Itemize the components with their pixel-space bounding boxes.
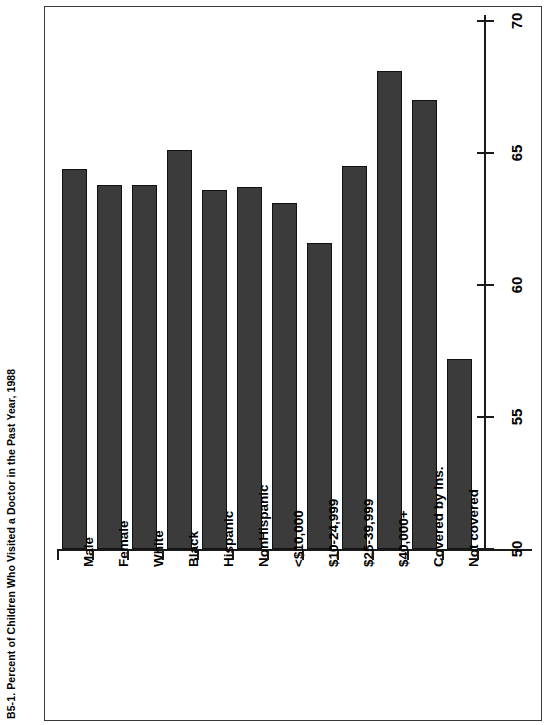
value-axis-tick-label: 60	[508, 265, 526, 305]
value-axis-tick	[477, 416, 494, 418]
value-axis-tick	[477, 284, 494, 286]
bar-hispanic[interactable]	[202, 190, 227, 549]
category-tick	[127, 551, 129, 560]
category-label: White	[152, 530, 166, 567]
bar-black[interactable]	[167, 150, 192, 549]
bar-female[interactable]	[97, 185, 122, 549]
category-tick	[372, 551, 374, 560]
category-tick	[92, 551, 94, 560]
figure-frame: 5055606570MaleFemaleWhiteBlackHispanicNo…	[44, 6, 542, 721]
category-label: Female	[117, 520, 131, 567]
category-tick	[477, 551, 479, 560]
bar-10-000[interactable]	[272, 203, 297, 549]
bar-male[interactable]	[62, 169, 87, 549]
bar-40-000[interactable]	[377, 71, 402, 549]
category-label: Black	[187, 531, 201, 567]
category-tick	[197, 551, 199, 560]
value-axis-tick-label: 50	[508, 529, 526, 569]
category-tick	[267, 551, 269, 560]
category-tick	[57, 551, 59, 560]
value-axis-tick-label: 55	[508, 397, 526, 437]
category-tick	[407, 551, 409, 560]
category-tick	[302, 551, 304, 560]
category-tick	[337, 551, 339, 560]
chart-title: B5-1. Percent of Children Who Visited a …	[0, 0, 22, 725]
value-axis-tick-label: 70	[508, 1, 526, 41]
category-tick	[162, 551, 164, 560]
bar-25-39-999[interactable]	[342, 166, 367, 549]
value-axis-tick	[477, 152, 494, 154]
value-axis-line	[484, 15, 486, 551]
category-tick	[442, 551, 444, 560]
bar-white[interactable]	[132, 185, 157, 549]
value-axis-tick-label: 65	[508, 133, 526, 173]
category-tick	[232, 551, 234, 560]
value-axis-tick	[477, 20, 494, 22]
